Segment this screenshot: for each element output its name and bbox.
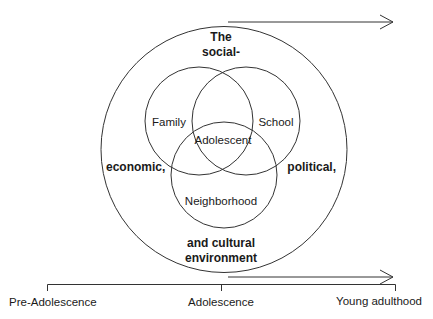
env-label-the: The <box>210 30 232 44</box>
env-label-social: social- <box>202 45 240 59</box>
timeline-axis <box>48 285 396 292</box>
neighborhood-label: Neighborhood <box>185 195 257 207</box>
family-label: Family <box>152 116 186 128</box>
timeline-stage-young-adulthood: Young adulthood <box>336 295 422 307</box>
top-arrow <box>228 15 393 29</box>
timeline-stage-adolescence: Adolescence <box>188 296 254 308</box>
adolescent-label: Adolescent <box>195 134 253 146</box>
env-label-political: political, <box>287 160 336 174</box>
env-label-and-cultural: and cultural <box>187 236 255 250</box>
timeline-stage-pre-adolescence: Pre-Adolescence <box>9 296 97 308</box>
school-label: School <box>258 116 293 128</box>
bottom-arrow <box>228 270 393 284</box>
env-label-environment: environment <box>185 251 257 265</box>
ecological-model-diagram: The social- economic, political, and cul… <box>0 0 433 319</box>
env-label-economic: economic, <box>106 160 165 174</box>
